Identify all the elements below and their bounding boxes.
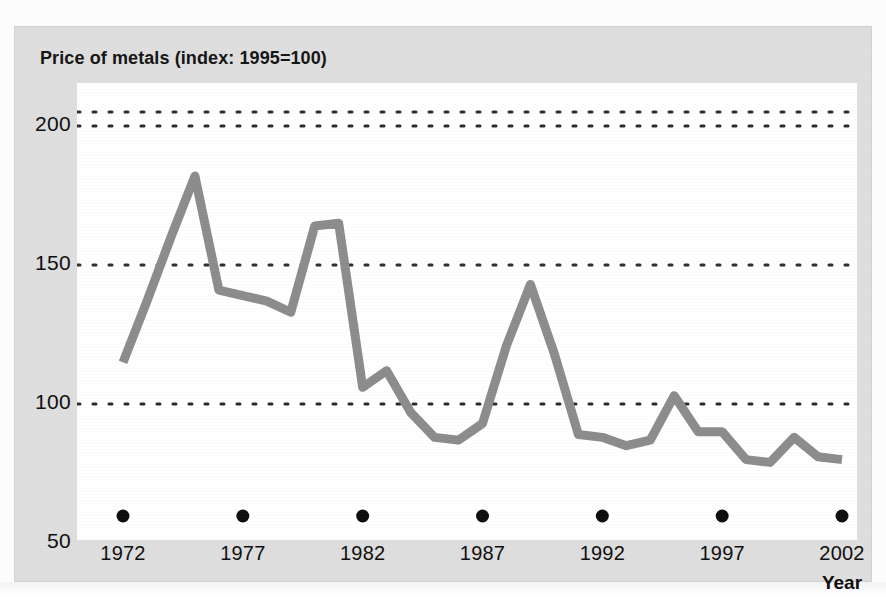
x-tick-label: 1987 <box>460 542 505 565</box>
page-edge-left <box>0 0 14 604</box>
x-tick-dot <box>236 510 249 523</box>
x-tick-label: 1977 <box>220 542 265 565</box>
x-tick-label: 1992 <box>580 542 625 565</box>
x-tick-dot <box>716 510 729 523</box>
x-tick-dot <box>476 510 489 523</box>
page-edge-right <box>872 0 886 604</box>
page-edge-top <box>0 0 886 26</box>
chart-panel: Price of metals (index: 1995=100) 200150… <box>14 26 872 582</box>
x-axis-tick-labels: 1972197719821987199219972002 <box>14 26 872 582</box>
x-tick-dot <box>596 510 609 523</box>
x-tick-label: 1997 <box>700 542 745 565</box>
x-tick-dot <box>836 510 849 523</box>
page-edge-bottom <box>0 582 886 604</box>
x-tick-dot <box>356 510 369 523</box>
x-tick-label: 2002 <box>819 542 864 565</box>
x-tick-label: 1972 <box>100 542 145 565</box>
x-tick-label: 1982 <box>340 542 385 565</box>
x-tick-dot <box>117 510 130 523</box>
x-tick-dots <box>77 502 857 532</box>
x-axis-title: Year <box>822 572 862 594</box>
figure-container: Price of metals (index: 1995=100) 200150… <box>0 0 886 604</box>
